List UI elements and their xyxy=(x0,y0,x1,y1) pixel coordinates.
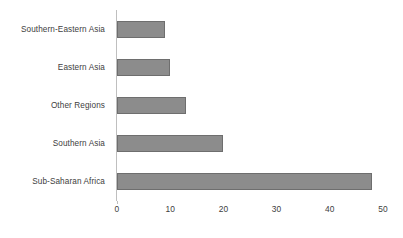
bar-row xyxy=(117,163,383,201)
category-label: Sub-Saharan Africa xyxy=(0,163,111,201)
bar-chart: Southern-Eastern Asia Eastern Asia Other… xyxy=(0,0,403,238)
bar xyxy=(117,135,223,152)
bar-row xyxy=(117,125,383,163)
x-tick-mark xyxy=(117,201,118,204)
x-tick-label: 30 xyxy=(272,204,282,214)
x-tick-label: 20 xyxy=(219,204,229,214)
bar xyxy=(117,173,372,190)
bar-row xyxy=(117,10,383,48)
bars-layer xyxy=(117,10,383,201)
bar xyxy=(117,59,170,76)
bar-row xyxy=(117,48,383,86)
x-tick-label: 40 xyxy=(325,204,335,214)
bar xyxy=(117,21,165,38)
category-axis-labels: Southern-Eastern Asia Eastern Asia Other… xyxy=(0,10,111,201)
x-tick-label: 0 xyxy=(115,204,120,214)
bar xyxy=(117,97,186,114)
category-label: Other Regions xyxy=(0,86,111,124)
category-label: Southern-Eastern Asia xyxy=(0,10,111,48)
bar-row xyxy=(117,86,383,124)
category-label: Eastern Asia xyxy=(0,48,111,86)
value-axis-labels: 0 10 20 30 40 50 xyxy=(0,204,403,220)
category-label: Southern Asia xyxy=(0,125,111,163)
x-tick-label: 50 xyxy=(378,204,388,214)
plot-area: Southern-Eastern Asia Eastern Asia Other… xyxy=(0,0,403,238)
x-tick-label: 10 xyxy=(165,204,175,214)
